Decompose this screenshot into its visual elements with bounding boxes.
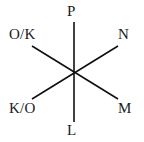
ray-label-lower-right: M: [118, 101, 132, 116]
ray-label-upper-right: N: [118, 27, 129, 42]
ray-label-lower-left: K/O: [9, 101, 35, 116]
ray-label-bottom: L: [67, 123, 76, 138]
ray-label-upper-left: O/K: [9, 27, 35, 42]
axis-rays-group: [0, 0, 144, 142]
diagram-canvas: P N M L K/O O/K: [0, 0, 144, 142]
ray-label-top: P: [67, 4, 76, 19]
